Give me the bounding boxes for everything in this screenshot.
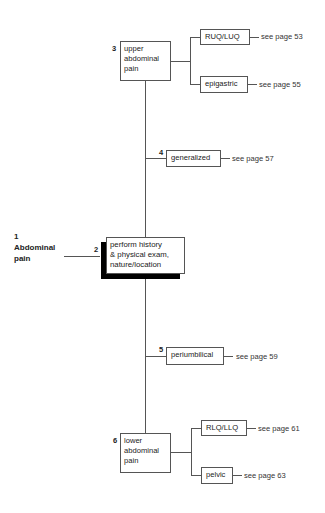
ruq-connector	[190, 37, 200, 38]
epigastric-connector	[190, 84, 200, 85]
upper-box: upper abdominal pain	[120, 41, 171, 81]
lower-branch-connector	[171, 452, 191, 453]
ruq-luq-label: RUQ/LUQ	[205, 32, 240, 41]
pelvic-ref: see page 63	[244, 471, 286, 480]
periumbilical-ref-connector	[224, 356, 233, 357]
start-node: 1 Abdominal pain	[14, 231, 55, 264]
history-box: perform history & physical exam, nature/…	[106, 237, 185, 274]
pelvic-box: pelvic	[201, 467, 233, 484]
upper-branch-connector	[170, 61, 190, 62]
rlq-llq-box: RLQ/LLQ	[201, 420, 247, 436]
lower-line-1: lower	[124, 436, 167, 446]
history-line-3: nature/location	[110, 260, 181, 270]
epigastric-label: epigastric	[205, 79, 238, 88]
epigastric-ref-connector	[248, 84, 257, 85]
upper-number: 3	[112, 44, 116, 53]
start-label-line1: Abdominal	[14, 242, 55, 253]
epigastric-box: epigastric	[200, 76, 248, 93]
periumbilical-box: periumbilical	[166, 347, 224, 365]
start-label-line2: pain	[14, 253, 55, 264]
lower-line-3: pain	[124, 456, 167, 466]
generalized-connector	[145, 158, 166, 159]
generalized-ref: see page 57	[232, 154, 274, 163]
upper-line-1: upper	[124, 44, 167, 54]
rlq-llq-ref: see page 61	[258, 424, 300, 433]
upper-line-3: pain	[124, 64, 167, 74]
rlq-ref-connector	[247, 428, 256, 429]
pelvic-connector	[191, 475, 201, 476]
ruq-luq-ref: see page 53	[261, 32, 303, 41]
lower-box: lower abdominal pain	[120, 433, 171, 473]
ruq-luq-box: RUQ/LUQ	[200, 29, 250, 45]
upper-branch-vertical	[190, 37, 191, 85]
generalized-ref-connector	[221, 158, 230, 159]
rlq-llq-label: RLQ/LLQ	[206, 423, 238, 432]
generalized-number: 4	[159, 148, 163, 157]
ruq-ref-connector	[250, 37, 259, 38]
periumbilical-connector	[145, 356, 166, 357]
pelvic-ref-connector	[233, 475, 242, 476]
start-number: 1	[14, 231, 55, 242]
lower-branch-vertical	[191, 428, 192, 476]
history-line-1: perform history	[110, 240, 181, 250]
pelvic-label: pelvic	[206, 470, 225, 479]
epigastric-ref: see page 55	[259, 80, 301, 89]
history-number: 2	[94, 245, 98, 254]
lower-number: 6	[113, 436, 117, 445]
generalized-label: generalized	[171, 153, 210, 162]
generalized-box: generalized	[166, 150, 221, 167]
upper-line-2: abdominal	[124, 54, 167, 64]
start-connector	[64, 256, 100, 257]
periumbilical-label: periumbilical	[171, 350, 213, 359]
periumbilical-number: 5	[159, 345, 163, 354]
periumbilical-ref: see page 59	[236, 352, 278, 361]
history-line-2: & physical exam,	[110, 250, 181, 260]
rlq-connector	[191, 428, 201, 429]
lower-line-2: abdominal	[124, 446, 167, 456]
